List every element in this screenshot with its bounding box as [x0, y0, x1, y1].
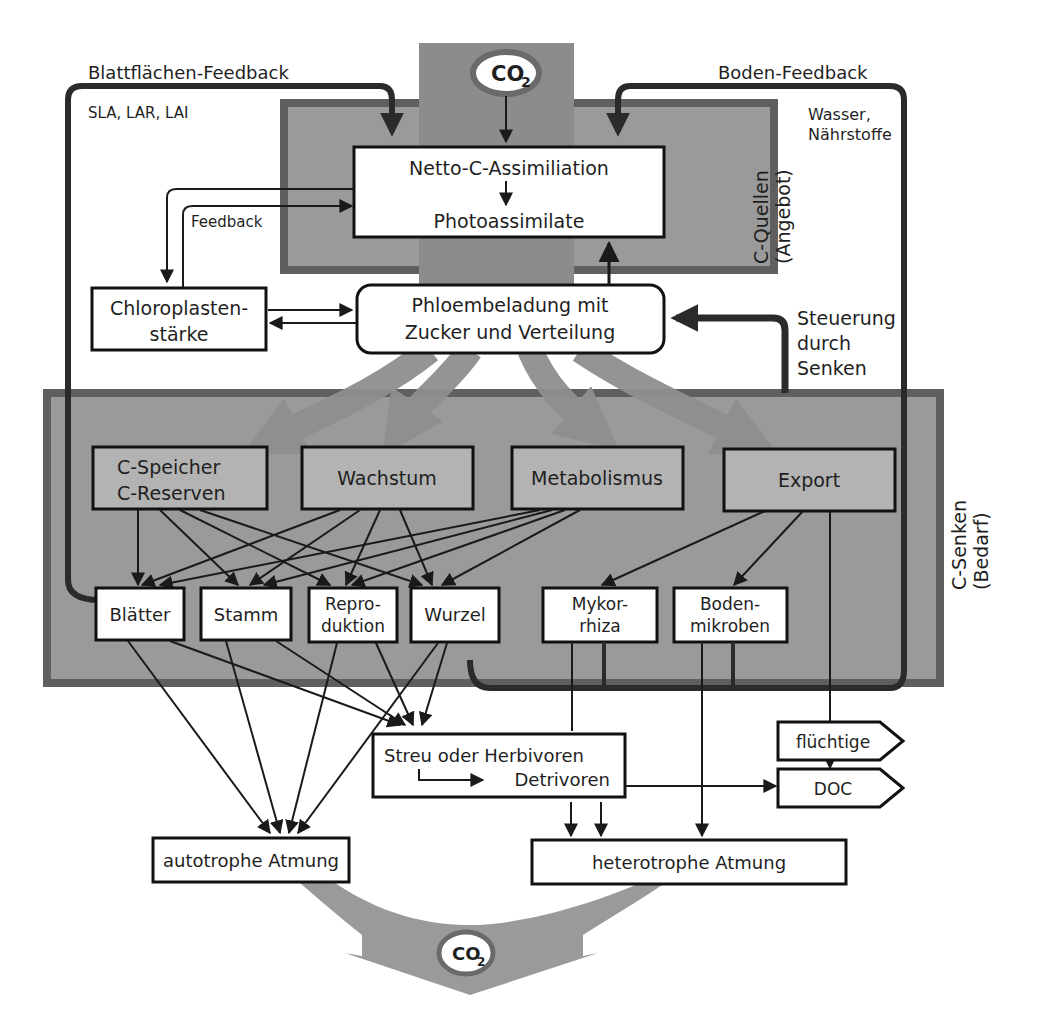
control-label-line1: Steuerung	[797, 307, 896, 329]
leaves-box: Blätter	[96, 588, 184, 640]
svg-text:duktion: duktion	[321, 616, 385, 636]
svg-text:Zucker und Verteilung: Zucker und Verteilung	[405, 321, 615, 343]
heterotrophic-respiration-box: heterotrophe Atmung	[532, 840, 846, 884]
reproduction-box: Repro- duktion	[309, 588, 397, 642]
svg-text:rhiza: rhiza	[579, 616, 621, 636]
root-box: Wurzel	[411, 588, 499, 642]
control-label-line3: Senken	[797, 357, 867, 379]
svg-text:DOC: DOC	[814, 779, 852, 799]
svg-text:Streu oder Herbivoren: Streu oder Herbivoren	[384, 745, 584, 766]
svg-text:CO: CO	[491, 62, 524, 86]
co2-release-funnel: CO 2	[300, 883, 665, 995]
svg-text:Boden-: Boden-	[700, 594, 760, 614]
doc-box: DOC	[778, 769, 903, 807]
svg-text:Stamm: Stamm	[214, 604, 279, 625]
svg-text:Netto-C-Assimiliation: Netto-C-Assimiliation	[409, 157, 609, 179]
leaf-params-label: SLA, LAR, LAI	[88, 104, 188, 122]
svg-text:Phloembeladung mit: Phloembeladung mit	[412, 294, 609, 316]
volatile-box: flüchtige	[778, 722, 903, 760]
svg-text:heterotrophe Atmung: heterotrophe Atmung	[592, 852, 786, 873]
water-label-line2: Nährstoffe	[808, 125, 892, 144]
leaf-feedback-label: Blattflächen-Feedback	[88, 62, 289, 83]
svg-text:C-Reserven: C-Reserven	[117, 482, 226, 504]
svg-text:(Bedarf): (Bedarf)	[970, 512, 992, 590]
stem-box: Stamm	[201, 588, 291, 640]
sources-label: C-Quellen (Angebot)	[750, 169, 794, 264]
svg-text:stärke: stärke	[150, 323, 209, 345]
svg-text:autotrophe Atmung: autotrophe Atmung	[163, 850, 339, 871]
soil-feedback-label: Boden-Feedback	[718, 62, 868, 83]
svg-text:Export: Export	[778, 469, 840, 491]
storage-box: C-Speicher C-Reserven	[93, 447, 267, 509]
svg-text:Detrivoren: Detrivoren	[514, 769, 610, 790]
svg-text:Blätter: Blätter	[110, 604, 172, 625]
svg-text:C-Quellen: C-Quellen	[750, 170, 772, 264]
svg-text:Mykor-: Mykor-	[572, 594, 628, 614]
soil-microbes-box: Boden- mikroben	[674, 588, 787, 642]
co2-top-badge: CO 2	[473, 52, 539, 94]
svg-text:(Angebot): (Angebot)	[772, 169, 794, 264]
autotrophic-respiration-box: autotrophe Atmung	[153, 838, 349, 882]
litter-herbivores-box: Streu oder Herbivoren Detrivoren	[373, 734, 625, 797]
sinks-label: C-Senken (Bedarf)	[948, 500, 992, 590]
svg-text:2: 2	[477, 955, 485, 969]
svg-text:Wurzel: Wurzel	[424, 604, 486, 625]
mycorrhiza-box: Mykor- rhiza	[543, 588, 657, 642]
control-label-line2: durch	[797, 332, 851, 354]
assimilation-box: Netto-C-Assimiliation Photoassimilate	[354, 147, 664, 237]
svg-text:Chloroplasten-: Chloroplasten-	[110, 297, 248, 319]
carbon-allocation-diagram: CO 2 Netto-C-Assimiliation Photoassimila…	[0, 0, 1039, 1020]
export-box: Export	[724, 449, 895, 511]
svg-text:Photoassimilate: Photoassimilate	[434, 210, 585, 232]
svg-text:C-Speicher: C-Speicher	[117, 456, 220, 478]
feedback-label: Feedback	[191, 213, 263, 231]
svg-text:flüchtige: flüchtige	[796, 732, 870, 752]
svg-text:Metabolismus: Metabolismus	[531, 467, 663, 489]
svg-text:mikroben: mikroben	[690, 616, 770, 636]
svg-text:Wachstum: Wachstum	[337, 467, 437, 489]
sink-control-arrow	[676, 318, 785, 393]
svg-text:Repro-: Repro-	[325, 594, 381, 614]
water-label-line1: Wasser,	[808, 105, 871, 124]
svg-text:2: 2	[521, 74, 531, 90]
chloroplast-starch-box: Chloroplasten- stärke	[92, 288, 266, 350]
phloem-loading-box: Phloembeladung mit Zucker und Verteilung	[357, 285, 664, 353]
growth-box: Wachstum	[302, 447, 473, 509]
metabolism-box: Metabolismus	[512, 447, 683, 509]
svg-text:C-Senken: C-Senken	[948, 500, 970, 590]
